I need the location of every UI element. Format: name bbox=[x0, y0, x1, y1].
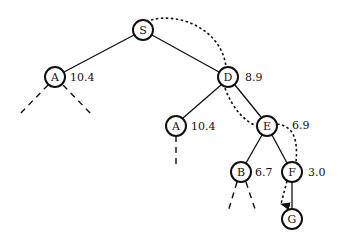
node-label: G bbox=[288, 213, 297, 226]
node-f: F bbox=[282, 162, 302, 182]
unexpanded-branches bbox=[18, 85, 256, 212]
node-value: 6.7 bbox=[255, 166, 273, 179]
node-value: 3.0 bbox=[308, 166, 326, 179]
trace-f-to-g bbox=[281, 181, 287, 204]
node-label: E bbox=[263, 120, 271, 133]
node-a1: A bbox=[45, 67, 65, 87]
trace-s-to-d bbox=[151, 18, 226, 67]
node-value: 8.9 bbox=[245, 71, 263, 84]
branch-a1-right bbox=[63, 85, 93, 116]
edge-s-d bbox=[152, 35, 219, 72]
node-g: G bbox=[282, 209, 302, 229]
branch-b-right bbox=[246, 182, 256, 212]
branch-a1-left bbox=[18, 85, 48, 116]
node-d: D bbox=[218, 67, 238, 87]
node-s: S bbox=[133, 20, 153, 40]
branch-b-left bbox=[228, 182, 237, 212]
search-tree-diagram: S A 10.4 D 8.9 A 10.4 E 6.9 B 6.7 F 3.0 … bbox=[0, 0, 341, 241]
node-a2: A bbox=[166, 116, 186, 136]
node-label: A bbox=[171, 120, 181, 133]
node-value: 10.4 bbox=[70, 71, 95, 84]
edge-e-b bbox=[246, 135, 262, 163]
node-value: 10.4 bbox=[191, 120, 216, 133]
edge-e-f bbox=[272, 135, 287, 163]
edge-d-a bbox=[183, 85, 221, 118]
node-label: A bbox=[50, 71, 60, 84]
node-label: S bbox=[139, 24, 147, 37]
node-label: D bbox=[224, 71, 233, 84]
node-e: E bbox=[257, 116, 277, 136]
node-label: B bbox=[237, 166, 245, 179]
node-b: B bbox=[231, 162, 251, 182]
node-value: 6.9 bbox=[292, 119, 310, 132]
edge-d-e bbox=[235, 85, 261, 117]
node-label: F bbox=[288, 166, 296, 179]
edge-s-a bbox=[64, 35, 134, 72]
